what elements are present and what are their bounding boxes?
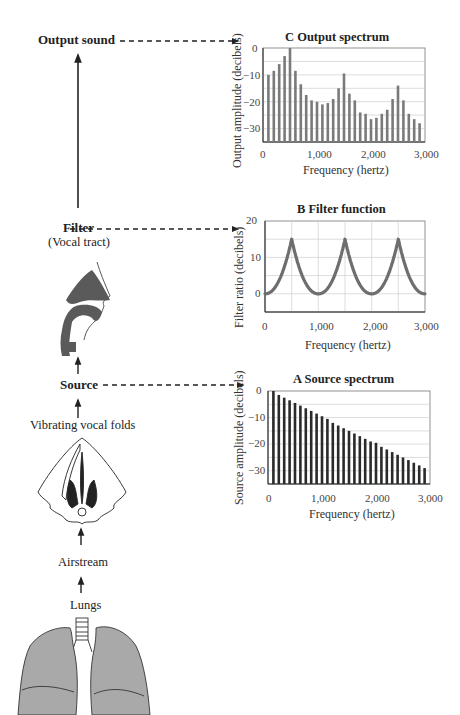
bar bbox=[397, 86, 400, 142]
vocal-tract-illustration bbox=[61, 262, 111, 356]
bar bbox=[326, 419, 329, 484]
filter-sublabel: (Vocal tract) bbox=[48, 235, 110, 250]
bar bbox=[310, 411, 313, 484]
bar bbox=[375, 443, 378, 484]
chart-c-xtick: 0 bbox=[260, 148, 266, 160]
chart-c-ytick: −20 bbox=[243, 96, 260, 108]
airstream-label: Airstream bbox=[58, 555, 108, 570]
bar bbox=[321, 104, 324, 142]
chart-b-title: B Filter function bbox=[297, 202, 386, 217]
bar bbox=[348, 431, 351, 484]
chart-b-xtick: 3,000 bbox=[414, 320, 439, 332]
chart-b-ytick: 10 bbox=[250, 251, 261, 263]
bar bbox=[418, 465, 421, 484]
bar bbox=[396, 455, 399, 484]
chart-a-title: A Source spectrum bbox=[293, 372, 394, 387]
chart-a-xtick: 2,000 bbox=[365, 492, 390, 504]
bar bbox=[386, 449, 389, 484]
bar bbox=[354, 100, 357, 142]
bar bbox=[369, 441, 372, 484]
bar bbox=[402, 457, 405, 484]
bar bbox=[391, 452, 394, 484]
chart-b-xtick: 2,000 bbox=[363, 320, 388, 332]
bar bbox=[299, 406, 302, 484]
chart-b-ylabel: Filter ratio (decibels) bbox=[232, 227, 247, 328]
bar bbox=[381, 114, 384, 142]
bar bbox=[310, 100, 313, 142]
bar bbox=[267, 75, 270, 142]
bar bbox=[315, 414, 318, 484]
chart-a-ytick: −10 bbox=[248, 411, 265, 423]
chart-b-xtick: 0 bbox=[262, 320, 268, 332]
bar bbox=[283, 56, 286, 142]
chart-b-xlabel: Frequency (hertz) bbox=[305, 338, 391, 353]
bar bbox=[353, 434, 356, 484]
vibrating-folds-label: Vibrating vocal folds bbox=[30, 418, 135, 433]
chart-c-xtick: 3,000 bbox=[414, 148, 439, 160]
chart-c-xtick: 1,000 bbox=[307, 148, 332, 160]
bar bbox=[407, 460, 410, 484]
bar bbox=[327, 103, 330, 142]
chart-c-title: C Output spectrum bbox=[285, 30, 389, 45]
bar bbox=[364, 114, 367, 142]
bar bbox=[288, 400, 291, 484]
bar bbox=[332, 423, 335, 484]
chart-a-xtick: 3,000 bbox=[418, 492, 443, 504]
chart-c-xtick: 2,000 bbox=[361, 148, 386, 160]
chart-c-frame bbox=[263, 48, 425, 142]
chart-a-ytick: −20 bbox=[248, 437, 265, 449]
lungs-illustration bbox=[18, 618, 150, 715]
bar bbox=[273, 71, 276, 142]
bar bbox=[278, 64, 281, 142]
output-sound-label: Output sound bbox=[38, 32, 115, 48]
bar bbox=[418, 123, 421, 142]
bar bbox=[413, 463, 416, 484]
chart-a-ylabel: Source amplitude (decibels) bbox=[232, 370, 247, 505]
chart-a-frame bbox=[268, 391, 430, 484]
bar bbox=[278, 395, 281, 484]
vocal-folds-illustration bbox=[38, 438, 126, 524]
bar bbox=[316, 102, 319, 142]
chart-b-frame bbox=[265, 221, 425, 312]
bar bbox=[332, 99, 335, 142]
bar bbox=[300, 84, 303, 142]
bar bbox=[342, 428, 345, 484]
chart-a-xtick: 1,000 bbox=[311, 492, 336, 504]
chart-c-ytick: −10 bbox=[243, 69, 260, 81]
lungs-label: Lungs bbox=[70, 598, 101, 613]
bar bbox=[348, 94, 351, 142]
bar bbox=[375, 118, 378, 142]
chart-c-ytick: 0 bbox=[252, 42, 258, 54]
bar bbox=[305, 95, 308, 142]
chart-a-ytick: −30 bbox=[248, 464, 265, 476]
chart-b-xtick: 1,000 bbox=[309, 320, 334, 332]
bar bbox=[283, 398, 286, 484]
bar bbox=[364, 439, 367, 484]
bar bbox=[370, 119, 373, 142]
chart-a-ytick: 0 bbox=[256, 384, 262, 396]
bar bbox=[321, 416, 324, 484]
chart-a-xlabel: Frequency (hertz) bbox=[309, 507, 395, 522]
bar bbox=[337, 426, 340, 484]
bar bbox=[337, 88, 340, 142]
bar bbox=[305, 408, 308, 484]
chart-b-ytick: 20 bbox=[246, 214, 257, 226]
source-label: Source bbox=[60, 377, 98, 393]
bar bbox=[386, 110, 389, 142]
filter-label: Filter bbox=[63, 220, 94, 236]
bar bbox=[408, 114, 411, 142]
bar bbox=[380, 447, 383, 484]
bar bbox=[272, 391, 275, 484]
bar bbox=[423, 468, 426, 484]
bar bbox=[343, 74, 346, 142]
bar bbox=[359, 112, 362, 142]
bar bbox=[289, 48, 292, 142]
chart-c-ytick: −30 bbox=[243, 122, 260, 134]
bar bbox=[402, 100, 405, 142]
bar bbox=[413, 119, 416, 142]
bar bbox=[294, 403, 297, 484]
chart-a-xtick: 0 bbox=[266, 492, 272, 504]
chart-b-ytick: 0 bbox=[255, 287, 261, 299]
bar bbox=[294, 71, 297, 142]
bar bbox=[391, 99, 394, 142]
